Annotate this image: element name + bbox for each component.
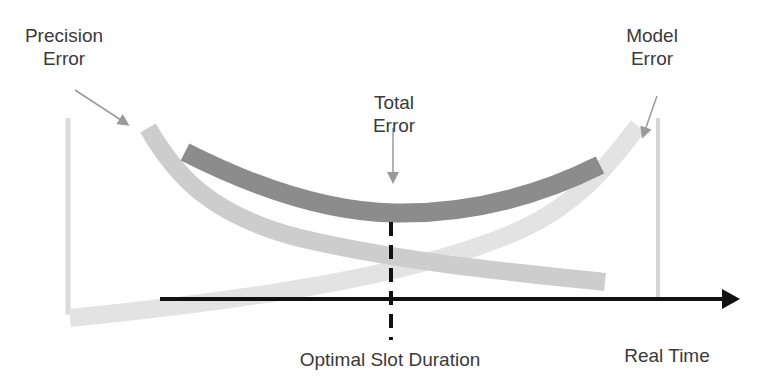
left-bracket-line	[68, 118, 110, 312]
x-axis-arrowhead-icon	[722, 289, 740, 309]
real-time-axis-label: Real Time	[612, 344, 722, 367]
model-pointer-arrow-icon	[643, 96, 657, 136]
optimal-slot-duration-label: Optimal Slot Duration	[258, 348, 522, 371]
model-error-label: Model Error	[612, 24, 692, 70]
precision-error-label: Precision Error	[14, 24, 114, 70]
total-error-label: Total Error	[362, 91, 426, 137]
precision-pointer-arrow-icon	[75, 90, 127, 124]
